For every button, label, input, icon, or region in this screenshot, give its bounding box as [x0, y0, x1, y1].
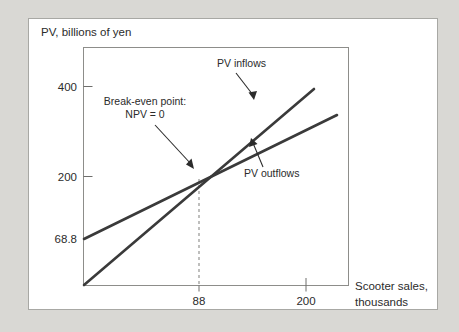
x-tick-label-88: 88 — [193, 295, 206, 307]
x-axis-title-line1: Scooter sales, — [355, 280, 428, 292]
figure-card: PV, billions of yen 400 200 68.8 88 200 … — [28, 18, 438, 310]
y-tick-label-68-8: 68.8 — [55, 233, 77, 245]
pv-outflows-label: PV outflows — [244, 167, 299, 179]
pv-inflows-label: PV inflows — [217, 57, 266, 69]
break-even-chart: PV, billions of yen 400 200 68.8 88 200 … — [29, 19, 439, 311]
y-axis-title: PV, billions of yen — [41, 26, 131, 38]
y-tick-label-200: 200 — [58, 171, 77, 183]
plot-frame — [84, 48, 349, 286]
y-tick-label-400: 400 — [58, 81, 77, 93]
x-axis-title-line2: thousands — [355, 296, 408, 308]
break-even-label-line2: NPV = 0 — [125, 108, 165, 120]
break-even-label-line1: Break-even point: — [104, 95, 186, 107]
x-tick-label-200: 200 — [296, 295, 315, 307]
chart-surface: PV, billions of yen 400 200 68.8 88 200 … — [29, 19, 437, 309]
